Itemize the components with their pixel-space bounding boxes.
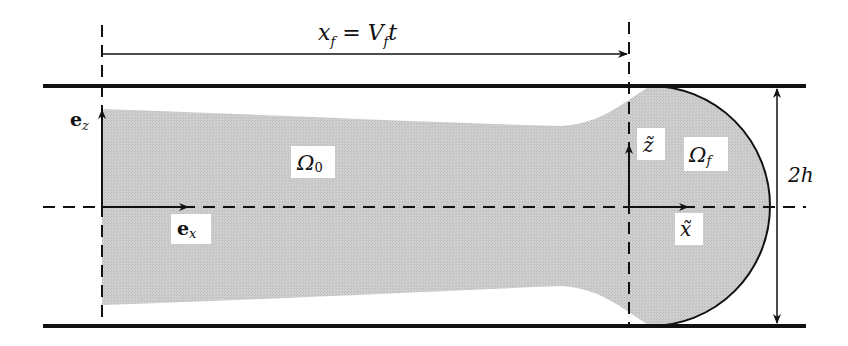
fluid-channel-diagram: xf = Vft ez Ω0 ex z̃ Ωf x̃ 2h bbox=[0, 0, 848, 346]
label-xf-main: x bbox=[318, 20, 331, 45]
z-tilde-label: z̃ bbox=[642, 133, 654, 157]
label-t: t bbox=[388, 20, 397, 45]
omega-f-main: Ω bbox=[688, 143, 706, 167]
omega-0-main: Ω bbox=[296, 151, 314, 175]
e-z-sub: z bbox=[81, 118, 89, 133]
front-position-label: xf = Vft bbox=[318, 20, 397, 49]
e-z-main: e bbox=[70, 108, 82, 130]
label-equals: = bbox=[335, 20, 367, 45]
e-x-main: e bbox=[177, 217, 189, 239]
x-tilde-label: x̃ bbox=[680, 217, 692, 241]
gap-label: 2h bbox=[787, 163, 814, 187]
omega-0-sub: 0 bbox=[314, 160, 322, 175]
e-z-label: ez bbox=[70, 108, 89, 133]
e-x-sub: x bbox=[189, 226, 197, 241]
